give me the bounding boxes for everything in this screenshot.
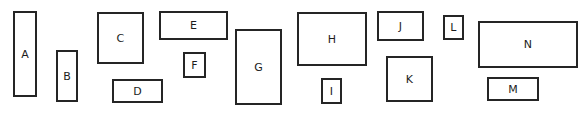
rectangle-m[interactable]: M bbox=[487, 77, 539, 101]
rectangle-c[interactable]: C bbox=[97, 12, 144, 64]
rectangle-label: I bbox=[330, 86, 333, 97]
rectangle-label: M bbox=[508, 84, 518, 95]
rectangle-label: G bbox=[254, 62, 263, 73]
rectangle-l[interactable]: L bbox=[443, 15, 464, 40]
rectangle-label: N bbox=[524, 39, 532, 50]
rectangle-j[interactable]: J bbox=[377, 11, 424, 41]
rectangle-label: C bbox=[117, 33, 125, 44]
rectangle-f[interactable]: F bbox=[183, 52, 206, 78]
rectangle-label: A bbox=[21, 49, 29, 60]
rectangle-label: J bbox=[399, 21, 402, 32]
rectangle-label: B bbox=[63, 71, 71, 82]
rectangle-label: L bbox=[450, 22, 456, 33]
rectangle-e[interactable]: E bbox=[159, 11, 228, 40]
rectangle-d[interactable]: D bbox=[112, 79, 163, 103]
shape-diagram-canvas: ABCDEFGHIJKLMN bbox=[0, 0, 583, 113]
rectangle-label: D bbox=[133, 86, 142, 97]
rectangle-label: K bbox=[406, 74, 413, 85]
rectangle-h[interactable]: H bbox=[297, 12, 367, 66]
rectangle-n[interactable]: N bbox=[478, 21, 578, 68]
rectangle-a[interactable]: A bbox=[13, 11, 37, 97]
rectangle-g[interactable]: G bbox=[235, 29, 282, 105]
rectangle-label: H bbox=[328, 34, 336, 45]
rectangle-k[interactable]: K bbox=[386, 56, 433, 102]
rectangle-i[interactable]: I bbox=[321, 78, 342, 104]
rectangle-b[interactable]: B bbox=[56, 50, 78, 102]
rectangle-label: E bbox=[190, 20, 197, 31]
rectangle-label: F bbox=[191, 60, 198, 71]
